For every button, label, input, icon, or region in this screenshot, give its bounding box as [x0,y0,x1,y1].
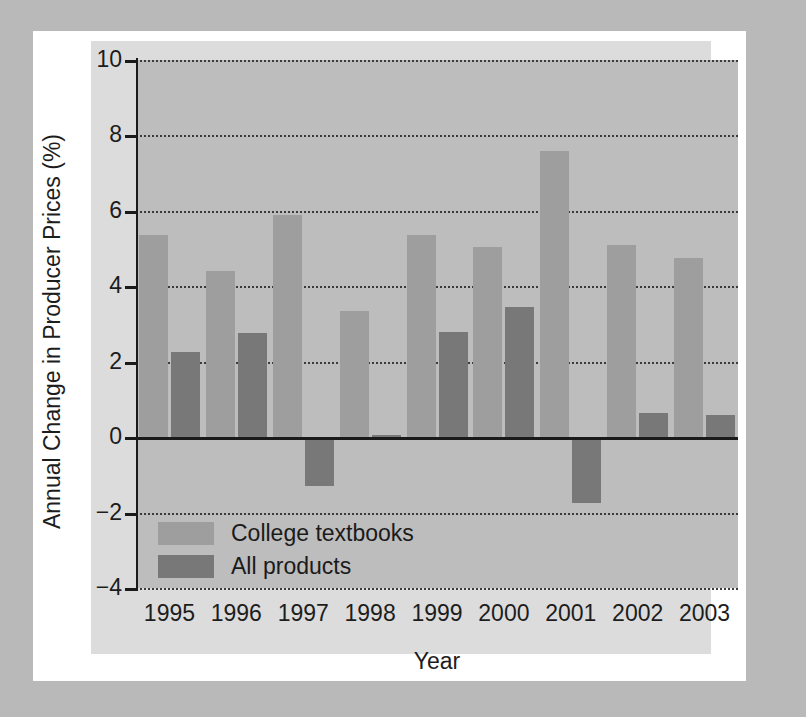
x-axis-tick-label: 2001 [537,600,604,632]
y-axis-tick [125,362,138,365]
legend-swatch-textbooks [158,522,214,545]
bar-2003-all-products [706,415,735,438]
bar-2001-all-products [572,437,601,503]
y-axis-tick-labels: 1086420−2−4 [60,0,122,717]
zero-baseline [136,437,738,440]
bar-1995-all-products [171,352,200,437]
gridline [136,60,738,62]
legend-item-all-products: All products [158,550,414,583]
bar-1996-all-products [238,333,267,437]
y-axis-tick-label: 2 [109,350,122,373]
gridline [136,513,738,515]
bar-2000-textbooks [473,247,502,437]
legend-swatch-all-products [158,555,214,578]
y-axis-tick-label: 10 [96,48,122,71]
y-axis-tick-label: 4 [109,274,122,297]
bar-1997-all-products [305,437,334,486]
y-axis-tick [125,135,138,138]
x-axis-tick-label: 1995 [136,600,203,632]
bar-1997-textbooks [273,215,302,438]
y-axis-tick-label: 6 [109,199,122,222]
bar-2002-textbooks [607,245,636,437]
legend-item-textbooks: College textbooks [158,517,414,550]
bar-2002-all-products [639,413,668,438]
bar-2001-textbooks [540,151,569,438]
legend-label-all-products: All products [231,553,351,580]
bar-1996-textbooks [206,271,235,437]
x-axis-tick-label: 2000 [470,600,537,632]
chart-legend: College textbooks All products [158,517,414,583]
x-axis-tick-label: 1997 [270,600,337,632]
x-axis-tick-label: 1999 [404,600,471,632]
y-axis-tick [125,513,138,516]
gridline [136,211,738,213]
plot-area [136,60,738,588]
gridline [136,588,738,590]
y-axis-tick [125,588,138,591]
y-axis-tick-label: 8 [109,123,122,146]
x-axis-tick-label: 1998 [337,600,404,632]
x-axis-tick-label: 2002 [604,600,671,632]
x-axis-tick-label: 1996 [203,600,270,632]
bar-1999-all-products [439,332,468,438]
x-axis-tick-labels: 199519961997199819992000200120022003 [136,600,738,632]
y-axis-title: Annual Change in Producer Prices (%) [39,72,66,592]
y-axis-tick-label: −2 [96,501,122,524]
bar-1998-textbooks [340,311,369,437]
y-axis-tick [125,211,138,214]
x-axis-title: Year [136,648,738,675]
y-axis-tick-label: 0 [109,425,122,448]
y-axis-tick [125,286,138,289]
legend-label-textbooks: College textbooks [231,520,414,547]
bar-2003-textbooks [674,258,703,437]
gridline [136,135,738,137]
bar-2000-all-products [505,307,534,437]
bar-1999-textbooks [407,235,436,437]
x-axis-tick-label: 2003 [671,600,738,632]
y-axis-tick-label: −4 [96,576,122,599]
y-axis-tick [125,60,138,63]
bar-1995-textbooks [139,235,168,437]
